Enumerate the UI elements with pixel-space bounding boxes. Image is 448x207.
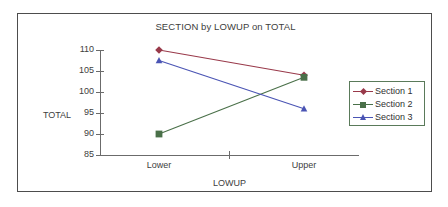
- chart-legend: Section 1 Section 2 Section 3: [349, 81, 425, 126]
- legend-label-section-3: Section 3: [373, 112, 413, 123]
- legend-swatch-square-icon: [353, 99, 373, 110]
- series-1-path: [159, 50, 304, 75]
- legend-swatch-triangle-icon: [353, 112, 373, 123]
- series-2-path: [159, 77, 304, 134]
- legend-item-section-1[interactable]: Section 1: [350, 85, 424, 98]
- legend-item-section-3[interactable]: Section 3: [350, 111, 424, 124]
- legend-swatch-diamond-icon: [353, 86, 373, 97]
- legend-item-section-2[interactable]: Section 2: [350, 98, 424, 111]
- chart-frame: SECTION by LOWUP on TOTAL 110 105 100 95…: [17, 13, 432, 192]
- series-3-path: [159, 61, 304, 109]
- legend-label-section-1: Section 1: [373, 86, 413, 97]
- legend-label-section-2: Section 2: [373, 99, 413, 110]
